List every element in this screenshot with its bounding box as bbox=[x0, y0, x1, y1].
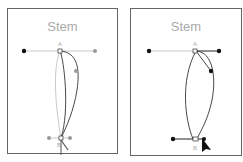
handle-point-icon bbox=[22, 49, 26, 53]
stem-diagram: A B A B bbox=[0, 0, 243, 162]
right-curve-group: A B bbox=[147, 41, 221, 152]
svg-text:A: A bbox=[193, 41, 197, 47]
svg-text:B: B bbox=[57, 142, 61, 148]
cursor-arrow-icon bbox=[202, 138, 211, 152]
svg-text:B: B bbox=[193, 145, 197, 151]
left-curve-group: A B bbox=[22, 41, 97, 155]
svg-text:A: A bbox=[58, 41, 62, 47]
handle-point-icon bbox=[93, 49, 97, 53]
